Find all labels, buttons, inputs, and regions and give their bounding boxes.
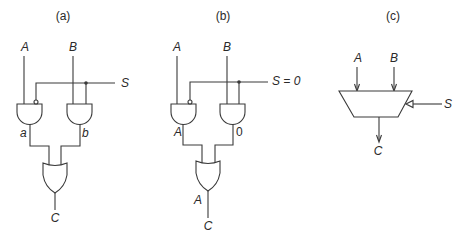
input-a-label: A [20,40,29,54]
or-gate [43,163,67,193]
or-output-label: A [193,193,202,207]
or-gate [196,161,220,191]
arrowhead-s-icon [406,101,413,108]
input-s-label: S [444,97,452,111]
input-s-label: S [121,76,129,90]
intermediate-right-label: 0 [236,125,243,139]
wire-s [190,82,268,101]
and-gate-1 [17,104,42,124]
input-a-label: A [172,40,181,54]
wire-and1-to-or [183,124,202,163]
output-c-label: C [204,219,213,233]
junction-dot [84,81,88,85]
inverter-bubble [188,100,192,104]
inverter-bubble [34,100,38,104]
output-c-label: C [374,144,383,158]
and-gate-2 [67,104,92,125]
diagram-canvas: (a) A B S a b C (b) A B S = 0 [0,0,467,240]
input-b-label: B [390,51,398,65]
wire-s [36,83,115,101]
input-b-label: B [223,40,231,54]
intermediate-b-label: b [82,126,89,140]
output-c-label: C [51,211,60,225]
panel-c: (c) A B S C [339,9,452,158]
wire-and2-to-or [215,124,233,163]
junction-dot [237,80,241,84]
panel-a: (a) A B S a b C [17,9,129,225]
intermediate-left-label: A [173,125,182,139]
wire-and1-to-or [30,124,49,165]
multiplexer-symbol [339,91,412,117]
and-gate-1 [171,104,196,125]
panel-b-caption: (b) [216,9,231,23]
and-gate-2 [220,104,245,125]
wire-and2-to-or [61,124,80,165]
panel-a-caption: (a) [56,9,71,23]
panel-b: (b) A B S = 0 A 0 A C [171,9,301,233]
input-s-label: S = 0 [272,74,301,88]
input-b-label: B [69,40,77,54]
input-a-label: A [353,51,362,65]
panel-c-caption: (c) [386,9,400,23]
intermediate-a-label: a [20,126,27,140]
